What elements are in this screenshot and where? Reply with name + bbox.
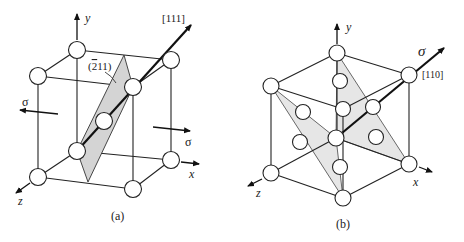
- atom: [125, 181, 142, 198]
- y-axis-label-b: y: [345, 20, 352, 34]
- z-axis-label-b: z: [255, 186, 261, 200]
- stress-label-left-a: σ: [22, 95, 29, 109]
- atom: [69, 42, 86, 59]
- face-center-atom: [296, 105, 311, 120]
- cube-edge: [271, 53, 337, 86]
- caption-b: (b): [336, 217, 350, 231]
- z-axis-arrow-a: [16, 183, 30, 193]
- panel-a: y [111] (211) σ σ x: [16, 11, 199, 223]
- stress-label-b: σ: [418, 43, 426, 59]
- crystal-diagram: y [111] (211) σ σ x: [0, 0, 464, 242]
- face-center-atom: [366, 100, 381, 115]
- atom: [263, 165, 279, 181]
- atom: [263, 78, 279, 94]
- atom: [329, 45, 345, 61]
- cube-edge: [38, 177, 133, 189]
- x-axis-arrow-b: [419, 167, 432, 172]
- atom: [30, 169, 47, 186]
- x-axis-label-a: x: [188, 167, 195, 181]
- plane-211-label: (211): [88, 60, 112, 73]
- atom: [401, 156, 417, 172]
- x-axis-arrow-a: [181, 162, 199, 164]
- y-axis-label-a: y: [84, 11, 91, 25]
- atom: [30, 68, 47, 85]
- atom: [401, 67, 417, 83]
- direction-110-label: [110]: [422, 69, 443, 80]
- body-center-atom: [96, 113, 113, 130]
- atom: [163, 152, 180, 169]
- atom: [335, 190, 351, 206]
- stress-arrow-left-a: [20, 110, 58, 114]
- face-center-atom: [369, 130, 384, 145]
- x-axis-label-b: x: [412, 175, 419, 189]
- atom: [125, 79, 142, 96]
- face-center-atom: [336, 102, 351, 117]
- z-axis-label-a: z: [17, 194, 23, 208]
- caption-a: (a): [111, 209, 124, 223]
- panel-b: y [110] σ x z: [248, 20, 444, 231]
- face-center-atom: [333, 160, 348, 175]
- direction-111-label: [111]: [162, 12, 185, 24]
- atom: [328, 130, 344, 146]
- cube-edge: [343, 164, 409, 198]
- stress-label-right-a: σ: [185, 135, 192, 149]
- atom: [69, 143, 86, 160]
- atom: [163, 52, 180, 69]
- z-axis-arrow-b: [248, 179, 262, 186]
- face-center-atom: [293, 135, 308, 150]
- face-center-atom: [333, 74, 348, 89]
